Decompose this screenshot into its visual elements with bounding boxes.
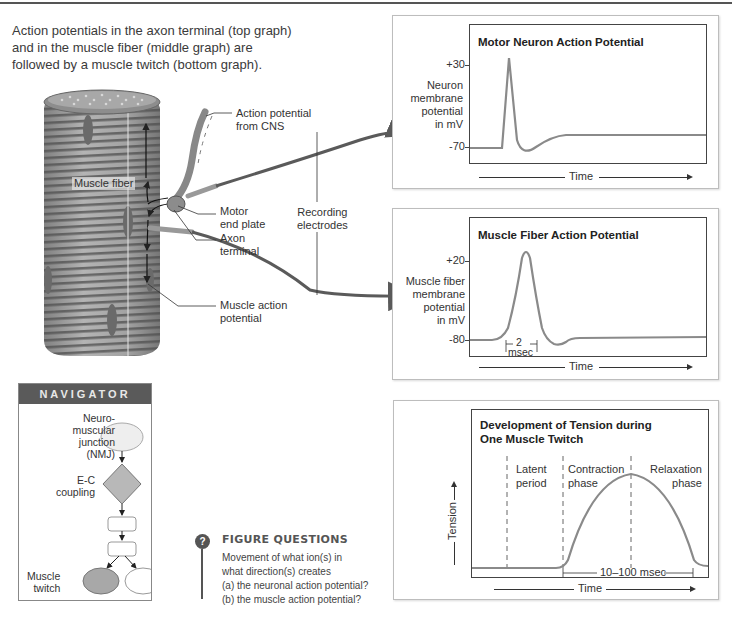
motor-neuron-trace [470, 25, 706, 163]
navigator-step-3[interactable] [108, 517, 136, 531]
x-axis-label: Time [569, 170, 593, 182]
plot-area: Development of Tension during One Muscle… [471, 409, 709, 578]
question-line: (b) the muscle action potential? [222, 593, 368, 607]
recording-electrodes-label: Recording electrodes [297, 206, 348, 232]
nmj-label: Neuro- muscular junction (NMJ) [72, 412, 115, 460]
question-line: Movement of what ion(s) in [222, 551, 368, 565]
label-line: potential [220, 312, 287, 325]
label-line: phase [568, 476, 624, 490]
navigator-step-4[interactable] [108, 542, 136, 556]
axon-terminal [167, 196, 185, 212]
label-line: E-C [56, 474, 95, 486]
y-axis-label: Muscle fibermembranepotentialin mV [395, 275, 465, 327]
muscle-fiber-label: Muscle fiber [72, 177, 135, 190]
ec-coupling-node[interactable] [103, 464, 141, 504]
label-line: (NMJ) [72, 448, 115, 460]
ytick-plus30: +30 [437, 58, 465, 70]
question-icon: ? [195, 534, 210, 549]
relaxation-phase-label: Relaxation phase [636, 462, 702, 490]
label-line: Relaxation [636, 462, 702, 476]
label-line: phase [636, 476, 702, 490]
muscle-action-potential-label: Muscle action potential [220, 299, 287, 325]
motor-neuron-graph-panel: Motor Neuron Action Potential +30 -70 Ne… [392, 15, 719, 189]
ytick-plus20: +20 [437, 254, 465, 266]
y-axis-label: Tension [449, 485, 461, 565]
axon-terminal-label: Axon terminal [220, 232, 259, 258]
label-line: Latent [516, 462, 547, 476]
navigator-title: NAVIGATOR [19, 384, 151, 404]
plot-area: Motor Neuron Action Potential [469, 24, 707, 164]
muscle-fiber-graph-panel: Muscle Fiber Action Potential 2 msec +20… [392, 208, 719, 380]
x-axis-label: Time [578, 582, 602, 594]
figure-questions-title: FIGURE QUESTIONS [222, 533, 368, 547]
label-line: Muscle [27, 570, 60, 582]
ec-coupling-label: E-C coupling [56, 474, 95, 498]
plot-area: Muscle Fiber Action Potential 2 msec [469, 217, 707, 357]
label-line: Axon [220, 232, 259, 245]
recording-electrode-top [188, 186, 216, 196]
latent-period-label: Latent period [516, 462, 547, 490]
label-line: Muscle action [220, 299, 287, 312]
navigator-step-6[interactable] [125, 568, 151, 594]
label-line: twitch [27, 582, 60, 594]
label-line: end plate [220, 218, 265, 231]
muscle-twitch-graph-panel: Development of Tension during One Muscle… [393, 400, 719, 600]
label-line: electrodes [297, 219, 348, 232]
question-line: what direction(s) creates [222, 565, 368, 579]
navigator-panel: NAVIGATOR Neuro- muscular junction (NMJ)… [18, 383, 152, 601]
electrode-wire-top [216, 132, 412, 186]
ytick-minus80: -80 [437, 333, 465, 345]
label-line: Neuro- [72, 412, 115, 424]
ytick-minus70: -70 [437, 140, 465, 152]
ap-from-cns-label: Action potential from CNS [236, 107, 311, 133]
muscle-twitch-label: Muscle twitch [27, 570, 60, 594]
label-line: terminal [220, 245, 259, 258]
label-line: Recording [297, 206, 348, 219]
label-line: Motor [220, 205, 265, 218]
tension-trace [472, 410, 708, 577]
label-line: muscular [72, 424, 115, 436]
figure-questions: FIGURE QUESTIONS Movement of what ion(s)… [222, 533, 368, 607]
label-line: coupling [56, 486, 95, 498]
y-axis-text: Tension [446, 500, 458, 542]
muscle-twitch-node[interactable] [83, 568, 119, 594]
label-line: period [516, 476, 547, 490]
motor-end-plate-label: Motor end plate [220, 205, 265, 231]
motor-neuron-axon [175, 112, 205, 200]
question-rule [201, 549, 203, 599]
duration-label: 10–100 msec [600, 566, 666, 578]
duration-unit-label: msec [508, 346, 533, 358]
muscle-fiber-trace [470, 218, 706, 356]
contraction-phase-label: Contraction phase [568, 462, 624, 490]
label-line: from CNS [236, 120, 311, 133]
label-line: Contraction [568, 462, 624, 476]
label-line: Action potential [236, 107, 311, 120]
question-line: (a) the neuronal action potential? [222, 579, 368, 593]
label-line: junction [72, 436, 115, 448]
x-axis-label: Time [569, 360, 593, 372]
y-axis-label: Neuronmembranepotentialin mV [397, 79, 463, 131]
